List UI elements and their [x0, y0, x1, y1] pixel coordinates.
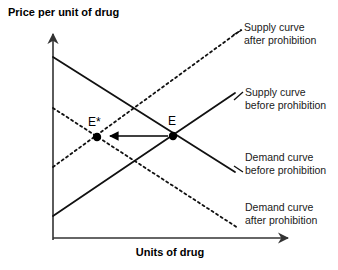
x-axis-title: Units of drug — [136, 246, 204, 258]
y-axis-title: Price per unit of drug — [8, 6, 119, 18]
legend-label-supply-before-line2: before prohibition — [245, 99, 326, 111]
legend-leader-demand-before — [234, 166, 243, 172]
equilibrium-point-e-star-label: E* — [88, 115, 101, 129]
legend-label-demand-before-line1: Demand curve — [245, 151, 313, 163]
legend-leader-supply-after — [233, 30, 242, 35]
legend-label-supply-after-line2: after prohibition — [244, 34, 317, 46]
equilibrium-point-e-dot — [169, 132, 177, 140]
legend-label-supply-before-line1: Supply curve — [245, 86, 306, 98]
legend-label-demand-after-line1: Demand curve — [245, 201, 313, 213]
equilibrium-point-e-star-dot — [93, 133, 101, 141]
equilibrium-point-e-label: E — [168, 114, 176, 128]
economics-supply-demand-figure: Price per unit of drug E* E Supply curve… — [0, 0, 338, 270]
legend-label-demand-after-line2: after prohibition — [245, 214, 318, 226]
diagram-canvas: Price per unit of drug E* E Supply curve… — [0, 0, 338, 270]
legend-label-supply-after-line1: Supply curve — [244, 21, 305, 33]
demand-curve-after-prohibition — [53, 108, 238, 228]
legend-label-demand-before-line2: before prohibition — [245, 164, 326, 176]
supply-curve-after-prohibition — [53, 30, 241, 167]
